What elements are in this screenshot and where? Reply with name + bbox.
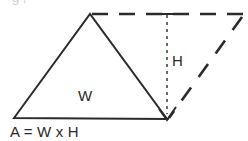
height-label: H <box>172 53 183 68</box>
width-label: W <box>78 88 92 103</box>
area-formula-label: A = W x H <box>10 124 79 139</box>
geometry-diagram: g , W H A = W x H <box>0 0 248 141</box>
geometry-canvas <box>0 0 248 141</box>
